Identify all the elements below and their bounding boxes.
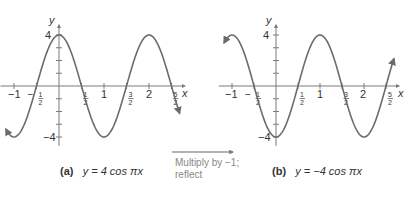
- svg-text:−: −: [245, 89, 251, 100]
- transform-note: Multiply by −1; reflect: [175, 157, 239, 181]
- graph-a: −12123252: [1, 25, 186, 146]
- x-tick-2-b: 2: [360, 88, 366, 100]
- svg-text:5: 5: [388, 91, 392, 98]
- x-axis-label-a: x: [182, 87, 188, 99]
- svg-text:2: 2: [129, 99, 133, 106]
- y-tick-4-a: 4: [45, 29, 51, 41]
- caption-b-id: (b): [272, 165, 286, 177]
- y-tick-4-b: 4: [263, 29, 269, 41]
- caption-a: (a) y = 4 cos πx: [60, 165, 143, 177]
- y-tick-neg4-a: −4: [43, 131, 56, 143]
- svg-text:3: 3: [129, 91, 133, 98]
- svg-text:1: 1: [39, 91, 43, 98]
- x-tick-1-a: 1: [101, 88, 107, 100]
- transform-note-line2: reflect: [175, 169, 239, 181]
- caption-b-eq: y = −4 cos πx: [295, 165, 362, 177]
- x-tick-neg1-b: −1: [225, 88, 238, 100]
- caption-a-eq: y = 4 cos πx: [83, 165, 143, 177]
- transform-note-line1: Multiply by −1;: [175, 157, 239, 169]
- svg-text:2: 2: [300, 99, 304, 106]
- graph-b: −12123252: [219, 25, 399, 146]
- svg-text:2: 2: [388, 99, 392, 106]
- svg-text:2: 2: [39, 99, 43, 106]
- caption-a-id: (a): [60, 165, 73, 177]
- svg-text:1: 1: [300, 91, 304, 98]
- x-tick-2-a: 2: [146, 88, 152, 100]
- caption-b: (b) y = −4 cos πx: [272, 165, 362, 177]
- y-axis-label-a: y: [49, 14, 55, 26]
- x-axis-label-b: x: [398, 87, 404, 99]
- y-axis-label-b: y: [266, 14, 272, 26]
- y-tick-neg4-b: −4: [258, 131, 271, 143]
- x-tick-1-b: 1: [317, 88, 323, 100]
- x-tick-neg1-a: −1: [8, 88, 21, 100]
